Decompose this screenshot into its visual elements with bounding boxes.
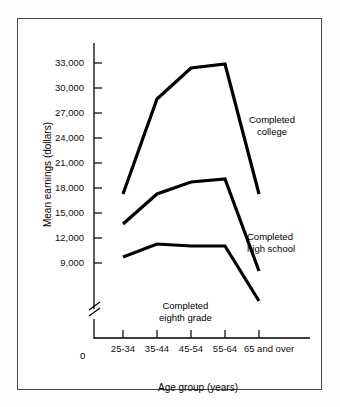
series-annotation-completed-eighth-grade: Completed eighth grade (159, 300, 212, 323)
series-annotation-eighth-grade-line2: eighth grade (159, 312, 212, 324)
y-tick-label-27000: 27,000 (32, 108, 84, 118)
series-annotation-college-line1: Completed (249, 114, 295, 125)
y-tick-label-33000: 33,000 (32, 58, 84, 68)
y-tick-label-12000: 12,000 (32, 233, 84, 243)
y-tick-label-21000: 21,000 (32, 158, 84, 168)
y-axis-title: Mean earnings (dollars) (42, 100, 53, 250)
chart-frame: 33,000 30,000 27,000 24,000 21,000 18,00… (17, 18, 322, 390)
y-tick-label-30000: 30,000 (32, 83, 84, 93)
y-tick-label-18000: 18,000 (32, 183, 84, 193)
series-line-completed-college (123, 64, 259, 194)
series-annotation-completed-college: Completed college (249, 114, 295, 137)
y-tick-label-24000: 24,000 (32, 133, 84, 143)
series-annotation-completed-high-school: Completed high school (247, 231, 295, 254)
y-tick-label-zero: 0 (80, 350, 85, 361)
figure-root: 33,000 30,000 27,000 24,000 21,000 18,00… (0, 0, 340, 407)
x-axis-title: Age group (years) (78, 382, 318, 393)
series-annotation-eighth-grade-line1: Completed (162, 300, 208, 311)
y-tick-label-9000: 9,000 (32, 258, 84, 268)
y-tick-label-15000: 15,000 (32, 208, 84, 218)
y-axis-ticks (94, 63, 102, 263)
x-axis-ticks (123, 330, 259, 338)
plot-area (18, 19, 321, 389)
series-line-completed-eighth-grade (123, 244, 259, 301)
series-annotation-college-line2: college (249, 126, 295, 138)
series-annotation-high-school-line2: high school (247, 243, 295, 255)
series-line-completed-high-school (123, 179, 259, 271)
series-annotation-high-school-line1: Completed (247, 231, 293, 242)
x-tick-label-65-and-over: 65 and over (231, 344, 307, 354)
